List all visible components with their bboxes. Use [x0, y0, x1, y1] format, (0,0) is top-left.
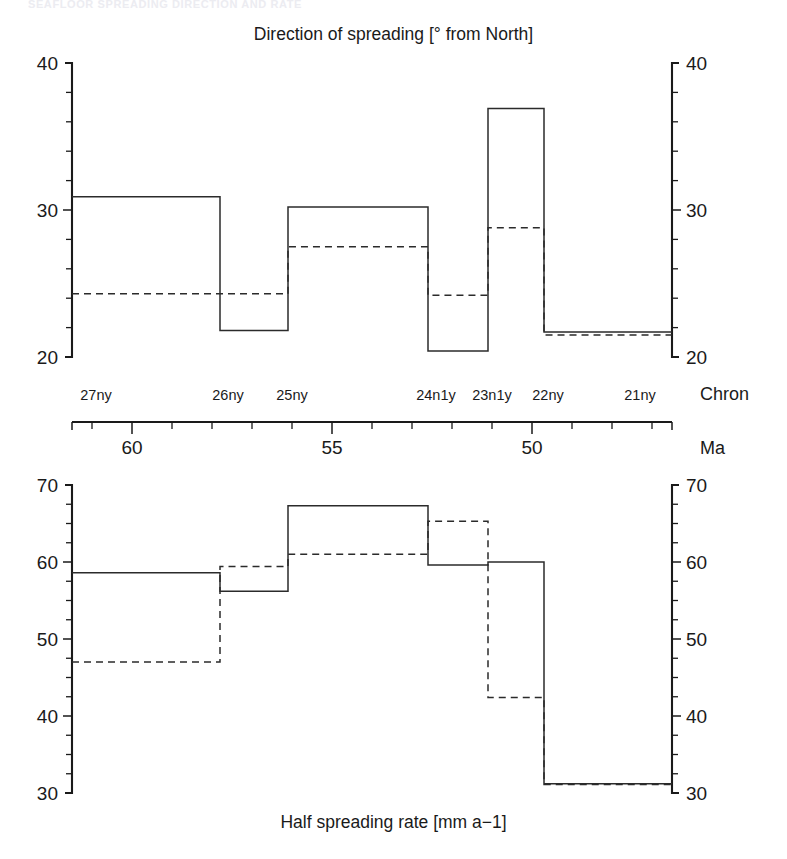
chron-label-25ny: 25ny — [276, 387, 308, 403]
y-tick-label: 30 — [686, 783, 707, 804]
y-tick-label: 40 — [686, 706, 707, 727]
y-tick-label: 50 — [686, 629, 707, 650]
y-tick-label: 20 — [37, 347, 58, 368]
age-axis-label: Ma — [700, 438, 726, 458]
y-tick-label: 60 — [686, 552, 707, 573]
y-tick-label: 70 — [686, 475, 707, 496]
half-spreading-rate-chart: 30405060703040506070 — [0, 468, 787, 813]
chron-axis-label: Chron — [700, 384, 749, 404]
series-dashed — [72, 228, 672, 335]
top-panel-title: Direction of spreading [° from North] — [0, 24, 787, 45]
y-tick-label: 20 — [686, 347, 707, 368]
chron-labels: 27ny26ny25ny24n1y23n1y22ny21ny — [80, 387, 656, 403]
bottom-panel-title: Half spreading rate [mm a−1] — [0, 812, 787, 833]
chron-label-27ny: 27ny — [80, 387, 112, 403]
y-tick-label: 60 — [37, 552, 58, 573]
top-chart-axes: 203040203040 — [37, 53, 707, 368]
series-solid — [72, 506, 672, 784]
figure-container: SEAFLOOR SPREADING DIRECTION AND RATE Di… — [0, 0, 787, 859]
bottom-chart-axes: 30405060703040506070 — [37, 475, 707, 804]
y-tick-label: 40 — [37, 53, 58, 74]
chron-label-26ny: 26ny — [212, 387, 244, 403]
y-tick-label: 40 — [686, 53, 707, 74]
time-axes: 27ny26ny25ny24n1y23n1y22ny21ny 605550 Ch… — [0, 384, 787, 470]
y-tick-label: 30 — [37, 783, 58, 804]
chron-label-21ny: 21ny — [624, 387, 656, 403]
chron-label-24n1y: 24n1y — [416, 387, 456, 403]
chron-label-22ny: 22ny — [532, 387, 564, 403]
y-tick-label: 40 — [37, 706, 58, 727]
y-tick-label: 70 — [37, 475, 58, 496]
age-tick-label: 55 — [321, 437, 342, 458]
chron-label-23n1y: 23n1y — [472, 387, 512, 403]
age-tick-label: 50 — [521, 437, 542, 458]
y-tick-label: 30 — [37, 200, 58, 221]
top-chart-series — [72, 109, 672, 352]
age-tick-label: 60 — [121, 437, 142, 458]
running-header: SEAFLOOR SPREADING DIRECTION AND RATE — [28, 0, 448, 10]
bottom-chart-series — [72, 506, 672, 785]
age-axis: 605550 — [72, 422, 672, 458]
y-tick-label: 50 — [37, 629, 58, 650]
series-dashed — [72, 521, 672, 784]
y-tick-label: 30 — [686, 200, 707, 221]
series-solid — [72, 109, 672, 352]
direction-of-spreading-chart: 203040203040 — [0, 46, 787, 376]
